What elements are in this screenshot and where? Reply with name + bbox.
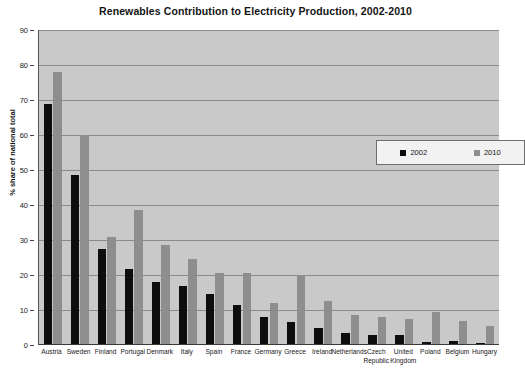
bar-austria-2002 xyxy=(44,104,52,346)
bar-austria-2010 xyxy=(53,72,61,345)
bar-italy-2010 xyxy=(188,259,196,345)
bar-ireland-2010 xyxy=(324,301,332,345)
gridline xyxy=(39,30,499,31)
bar-denmark-2002 xyxy=(152,282,160,345)
legend-swatch-2010-icon xyxy=(474,150,480,156)
y-tick-label: 0 xyxy=(24,341,28,350)
x-axis-label: Hungary xyxy=(461,348,507,357)
y-tick-mark xyxy=(30,240,34,241)
y-tick-mark xyxy=(30,170,34,171)
bar-france-2002 xyxy=(233,305,241,345)
y-axis-title: % share of national total xyxy=(8,78,17,228)
plot-area: 2002 2010 xyxy=(38,30,499,345)
y-tick-mark xyxy=(30,65,34,66)
bar-france-2010 xyxy=(243,273,251,345)
bar-denmark-2010 xyxy=(161,245,169,345)
y-tick-label: 30 xyxy=(20,236,28,245)
bar-sweden-2010 xyxy=(80,135,88,345)
bar-united-kingdom-2010 xyxy=(405,319,413,345)
gridline xyxy=(39,205,499,206)
legend-label-2002: 2002 xyxy=(410,148,427,157)
y-tick-label: 10 xyxy=(20,306,28,315)
bar-belgium-2010 xyxy=(459,321,467,346)
gridline xyxy=(39,65,499,66)
y-tick-label: 80 xyxy=(20,61,28,70)
y-tick-label: 20 xyxy=(20,271,28,280)
bar-italy-2002 xyxy=(179,286,187,346)
y-axis: 0102030405060708090 xyxy=(0,30,34,345)
bar-portugal-2010 xyxy=(134,210,142,345)
legend-item-2002: 2002 xyxy=(377,148,451,157)
bar-germany-2002 xyxy=(260,317,268,345)
y-tick-mark xyxy=(30,30,34,31)
chart-title: Renewables Contribution to Electricity P… xyxy=(0,5,511,17)
y-tick-mark xyxy=(30,205,34,206)
bar-spain-2002 xyxy=(206,294,214,345)
bar-poland-2010 xyxy=(432,312,440,345)
y-tick-label: 70 xyxy=(20,96,28,105)
y-tick-mark xyxy=(30,310,34,311)
y-tick-mark xyxy=(30,345,34,346)
bar-sweden-2002 xyxy=(71,175,79,345)
gridline xyxy=(39,135,499,136)
chart-legend: 2002 2010 xyxy=(376,140,525,165)
y-tick-mark xyxy=(30,135,34,136)
bar-spain-2010 xyxy=(215,273,223,345)
x-axis-category-labels: AustriaSwedenFinlandPortugalDenmarkItaly… xyxy=(38,348,498,382)
legend-swatch-2002-icon xyxy=(400,150,406,156)
bar-czech-republic-2010 xyxy=(378,317,386,345)
bar-hungary-2010 xyxy=(486,326,494,345)
bar-finland-2002 xyxy=(98,249,106,345)
y-tick-mark xyxy=(30,100,34,101)
gridline xyxy=(39,100,499,101)
legend-label-2010: 2010 xyxy=(484,148,501,157)
bar-portugal-2002 xyxy=(125,269,133,345)
y-tick-mark xyxy=(30,275,34,276)
bar-germany-2010 xyxy=(270,303,278,345)
y-tick-label: 40 xyxy=(20,201,28,210)
y-tick-label: 60 xyxy=(20,131,28,140)
x-axis-line xyxy=(39,344,499,345)
y-tick-label: 90 xyxy=(20,26,28,35)
legend-item-2010: 2010 xyxy=(451,148,525,157)
bar-greece-2010 xyxy=(297,275,305,345)
bar-netherlands-2010 xyxy=(351,315,359,345)
bar-greece-2002 xyxy=(287,322,295,345)
gridline xyxy=(39,170,499,171)
bar-ireland-2002 xyxy=(314,328,322,346)
bar-finland-2010 xyxy=(107,237,115,346)
y-tick-label: 50 xyxy=(20,166,28,175)
